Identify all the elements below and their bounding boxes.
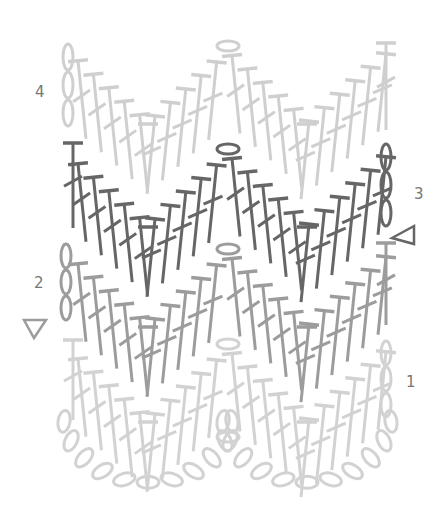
- turning-chain-icon: [63, 100, 73, 126]
- chain-stitch-icon: [359, 446, 383, 470]
- turning-chain-icon: [381, 172, 391, 198]
- chain-stitch-icon: [231, 446, 255, 470]
- chain-stitch-icon: [56, 409, 71, 433]
- chain-stitch-icon: [217, 41, 239, 51]
- turning-chain-icon: [61, 296, 71, 320]
- chain-stitch-icon: [217, 144, 239, 154]
- row-label-1: 1: [406, 373, 416, 391]
- turning-chain-icon: [61, 270, 71, 294]
- chain-stitch-icon: [200, 446, 224, 470]
- chain-stitch-icon: [340, 460, 365, 482]
- chain-stitch-icon: [181, 460, 206, 482]
- turning-chain-icon: [61, 244, 71, 268]
- chain-stitch-icon: [296, 476, 318, 488]
- chain-stitch-icon: [217, 339, 239, 349]
- row-label-2: 2: [34, 274, 44, 292]
- chain-stitch-icon: [217, 244, 239, 254]
- start-marker-row-2-icon: [24, 320, 46, 338]
- turning-chain-icon: [63, 72, 73, 98]
- chain-stitch-icon: [271, 471, 295, 489]
- turning-chain-icon: [381, 367, 391, 391]
- row-label-3: 3: [414, 185, 424, 203]
- turning-chain-icon: [381, 200, 391, 226]
- chain-stitch-icon: [90, 460, 115, 482]
- chain-stitch-icon: [249, 460, 274, 482]
- chain-stitch-icon: [72, 446, 96, 470]
- turning-chain-icon: [63, 44, 73, 70]
- chain-stitch-icon: [318, 471, 342, 489]
- crochet-chart: [0, 0, 443, 523]
- row-label-4: 4: [35, 83, 45, 101]
